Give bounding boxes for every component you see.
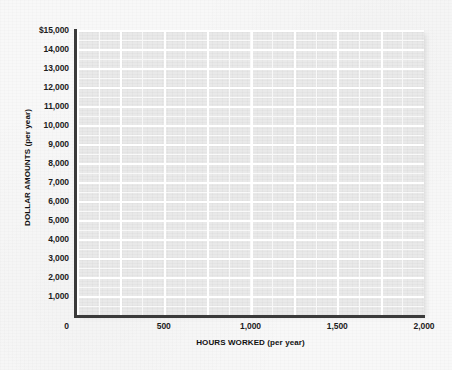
y-axis-line <box>74 29 77 318</box>
y-axis-tick-label: 2,000 <box>0 272 69 282</box>
plot-area <box>77 30 424 315</box>
y-axis-tick-label: 8,000 <box>0 158 69 168</box>
major-gridlines <box>77 30 424 315</box>
y-axis-tick-label: 13,000 <box>0 63 69 73</box>
y-axis-tick-label: 3,000 <box>0 253 69 263</box>
y-axis-tick-label: 4,000 <box>0 234 69 244</box>
x-axis-tick-label: 2,000 <box>414 321 435 331</box>
y-axis-tick-label: 7,000 <box>0 177 69 187</box>
x-axis-line <box>74 315 425 318</box>
minor-gridlines <box>77 30 424 315</box>
y-axis-tick-label: 10,000 <box>0 120 69 130</box>
y-axis-tick-label: 9,000 <box>0 139 69 149</box>
y-axis-tick-label: 14,000 <box>0 44 69 54</box>
x-axis-tick-label: 1,500 <box>327 321 348 331</box>
y-axis-tick-label: 1,000 <box>0 291 69 301</box>
x-axis-tick-label: 1,000 <box>240 321 261 331</box>
y-axis-tick-label-group: 1,0002,0003,0004,0005,0006,0007,0008,000… <box>0 0 69 370</box>
y-axis-tick-label: 6,000 <box>0 196 69 206</box>
blank-graph-figure: 1,0002,0003,0004,0005,0006,0007,0008,000… <box>0 0 452 370</box>
origin-tick-label: 0 <box>9 321 69 331</box>
y-axis-tick-label: 5,000 <box>0 215 69 225</box>
y-axis-tick-label: 12,000 <box>0 82 69 92</box>
y-axis-tick-label: $15,000 <box>0 25 69 35</box>
y-axis-title: DOLLAR AMOUNTS (per year) <box>23 68 32 268</box>
x-axis-title: HOURS WORKED (per year) <box>77 338 424 347</box>
x-axis-tick-label: 500 <box>157 321 171 331</box>
plot-panel-texture <box>77 30 424 315</box>
y-axis-tick-label: 11,000 <box>0 101 69 111</box>
